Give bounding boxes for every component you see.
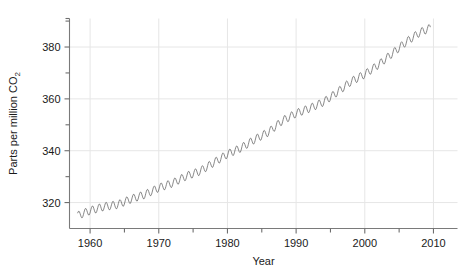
- x-tick-label: 1990: [284, 237, 308, 249]
- y-tick-label: 360: [42, 93, 60, 105]
- co2-chart-figure: 320340360380196019701980199020002010 Yea…: [0, 0, 475, 271]
- co2-series-line: [78, 25, 431, 218]
- axis-ticks: [65, 19, 434, 234]
- x-tick-label: 1980: [215, 237, 239, 249]
- chart-canvas: 320340360380196019701980199020002010 Yea…: [0, 0, 475, 271]
- x-tick-label: 2010: [421, 237, 445, 249]
- y-tick-label: 340: [42, 145, 60, 157]
- axis-tick-labels: 320340360380196019701980199020002010: [42, 41, 446, 248]
- x-tick-label: 1970: [147, 237, 171, 249]
- x-tick-label: 1960: [78, 237, 102, 249]
- y-tick-label: 320: [42, 197, 60, 209]
- y-tick-label: 380: [42, 41, 60, 53]
- x-tick-label: 2000: [353, 237, 377, 249]
- x-axis-title: Year: [252, 255, 275, 267]
- y-axis-title: Parts per million CO2: [7, 72, 22, 175]
- co2-line-path: [78, 25, 431, 218]
